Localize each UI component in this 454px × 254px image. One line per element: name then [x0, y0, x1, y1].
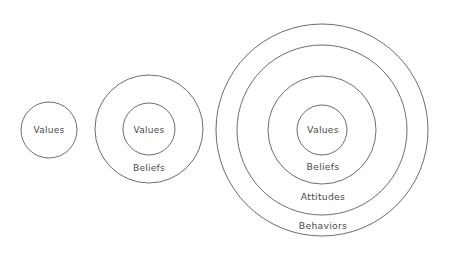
label-beliefs-g3: Beliefs	[307, 162, 340, 171]
label-values-g3: Values	[307, 125, 339, 134]
label-beliefs-g2: Beliefs	[133, 164, 165, 173]
nested-circles-svg	[0, 0, 454, 254]
label-attitudes-g3: Attitudes	[301, 192, 345, 201]
diagram-canvas: Values Values Beliefs Values Beliefs Att…	[0, 0, 454, 254]
label-behaviors-g3: Behaviors	[299, 221, 347, 230]
label-values-g2: Values	[134, 126, 165, 135]
label-values-g1: Values	[34, 126, 65, 135]
